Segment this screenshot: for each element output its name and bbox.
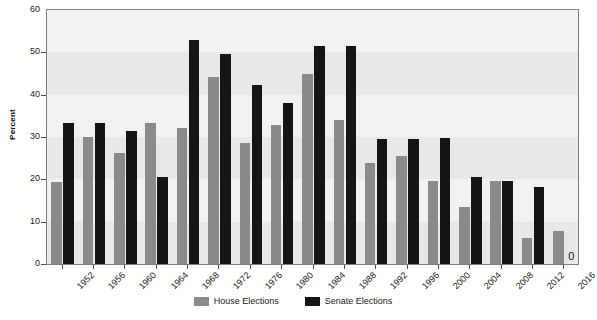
bar-house-1964 bbox=[145, 123, 156, 264]
y-axis-tick-label: 10 bbox=[18, 217, 40, 226]
y-axis-tick-mark bbox=[41, 222, 46, 223]
legend-label: Senate Elections bbox=[325, 297, 393, 306]
x-axis-tick-label: 2004 bbox=[482, 270, 503, 291]
legend-swatch-icon bbox=[305, 297, 320, 306]
bar-group bbox=[145, 10, 168, 264]
x-axis-tick-label: 1984 bbox=[325, 270, 346, 291]
x-axis-tick-label: 2000 bbox=[451, 270, 472, 291]
bar-house-1996 bbox=[396, 156, 407, 264]
bar-house-2008 bbox=[490, 181, 501, 264]
y-axis-tick-mark bbox=[41, 179, 46, 180]
bar-senate-1980 bbox=[283, 103, 294, 264]
bar-house-2004 bbox=[459, 207, 470, 264]
bar-group bbox=[459, 10, 482, 264]
bar-group bbox=[114, 10, 137, 264]
x-axis-tick-label: 1952 bbox=[75, 270, 96, 291]
legend-item-house[interactable]: House Elections bbox=[194, 297, 279, 306]
bar-group bbox=[177, 10, 200, 264]
zero-value-label: 0 bbox=[568, 251, 574, 262]
bar-group bbox=[428, 10, 451, 264]
y-axis-tick-label: 30 bbox=[18, 132, 40, 141]
y-axis-tick-mark bbox=[41, 264, 46, 265]
bar-senate-1996 bbox=[408, 139, 419, 264]
bar-group bbox=[51, 10, 74, 264]
bar-house-1976 bbox=[240, 143, 251, 264]
x-axis-tick-label: 1996 bbox=[419, 270, 440, 291]
bar-house-1992 bbox=[365, 163, 376, 264]
y-axis-tick-label: 40 bbox=[18, 90, 40, 99]
bar-senate-1988 bbox=[346, 46, 357, 264]
bar-senate-1960 bbox=[126, 131, 137, 264]
chart-legend: House ElectionsSenate Elections bbox=[0, 297, 586, 306]
bar-senate-1956 bbox=[95, 123, 106, 264]
y-axis-tick-mark bbox=[41, 52, 46, 53]
y-axis-tick-labels: 6050403020100 bbox=[12, 0, 40, 320]
legend-swatch-icon bbox=[194, 297, 209, 306]
bar-group bbox=[208, 10, 231, 264]
legend-item-senate[interactable]: Senate Elections bbox=[305, 297, 393, 306]
bar-senate-1984 bbox=[314, 46, 325, 264]
bar-house-1968 bbox=[177, 128, 188, 264]
x-axis-tick-label: 1964 bbox=[169, 270, 190, 291]
x-axis-tick-label: 1968 bbox=[200, 270, 221, 291]
bar-house-1980 bbox=[271, 125, 282, 264]
x-axis-tick-label: 1992 bbox=[388, 270, 409, 291]
bar-house-2016 bbox=[553, 231, 564, 264]
y-axis-tick-label: 50 bbox=[18, 47, 40, 56]
bar-senate-1968 bbox=[189, 40, 200, 264]
legend-label: House Elections bbox=[214, 297, 279, 306]
bar-senate-2000 bbox=[440, 138, 451, 264]
x-axis-tick-label: 1960 bbox=[137, 270, 158, 291]
y-axis-tick-mark bbox=[41, 95, 46, 96]
x-axis-tick-label: 2008 bbox=[513, 270, 534, 291]
x-axis-tick-label: 1976 bbox=[263, 270, 284, 291]
bar-group bbox=[490, 10, 513, 264]
bar-house-1952 bbox=[51, 182, 62, 264]
x-axis-tick-label: 2016 bbox=[576, 270, 597, 291]
bar-senate-1972 bbox=[220, 54, 231, 264]
bar-senate-1992 bbox=[377, 139, 388, 264]
bar-group bbox=[271, 10, 294, 264]
y-axis-tick-label: 20 bbox=[18, 174, 40, 183]
bar-house-1984 bbox=[302, 74, 313, 264]
bar-group bbox=[240, 10, 263, 264]
bar-house-1988 bbox=[334, 120, 345, 264]
bar-group bbox=[522, 10, 545, 264]
bar-house-1960 bbox=[114, 153, 125, 264]
plot-area: 0 bbox=[46, 9, 579, 265]
bars-layer: 0 bbox=[47, 10, 578, 264]
bar-house-2012 bbox=[522, 238, 533, 264]
bar-house-1956 bbox=[83, 137, 94, 264]
x-axis-tick-label: 1972 bbox=[231, 270, 252, 291]
bar-group bbox=[83, 10, 106, 264]
y-axis-tick-label: 60 bbox=[18, 5, 40, 14]
x-axis-tick-label: 1980 bbox=[294, 270, 315, 291]
y-axis-tick-label: 0 bbox=[18, 259, 40, 268]
bar-group bbox=[553, 10, 576, 264]
bar-senate-1952 bbox=[63, 123, 74, 264]
bar-group bbox=[334, 10, 357, 264]
bar-senate-1976 bbox=[252, 85, 263, 264]
bar-senate-2004 bbox=[471, 177, 482, 264]
bar-senate-1964 bbox=[157, 177, 168, 264]
bar-group bbox=[365, 10, 388, 264]
x-axis-tick-label: 1988 bbox=[357, 270, 378, 291]
x-axis-tick-label: 1956 bbox=[106, 270, 127, 291]
y-axis-tick-mark bbox=[41, 137, 46, 138]
bar-house-2000 bbox=[428, 181, 439, 264]
bar-senate-2012 bbox=[534, 187, 545, 264]
x-axis-tick-label: 2012 bbox=[545, 270, 566, 291]
bar-house-1972 bbox=[208, 77, 219, 264]
bar-senate-2008 bbox=[502, 181, 513, 264]
bar-group bbox=[396, 10, 419, 264]
bar-group bbox=[302, 10, 325, 264]
